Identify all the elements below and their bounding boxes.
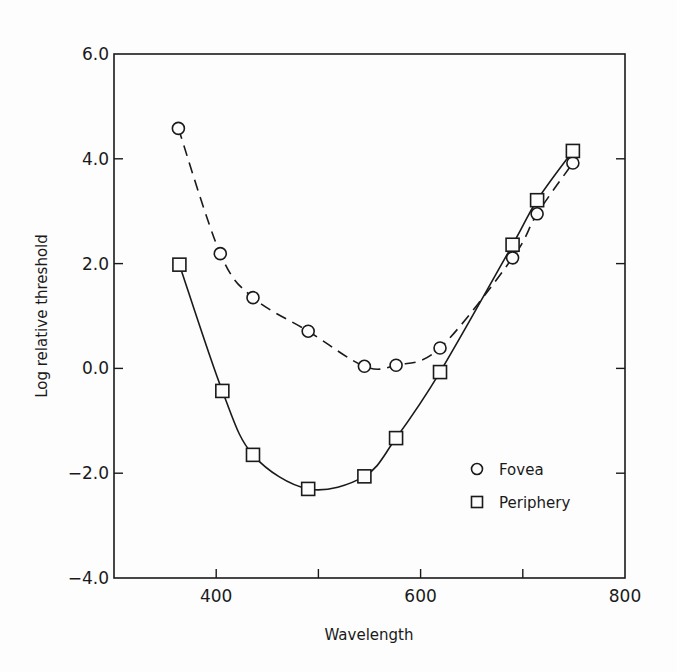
square-marker-icon (506, 238, 519, 251)
square-marker-icon (358, 470, 371, 483)
series-periphery (173, 144, 579, 495)
square-marker-icon (434, 366, 447, 379)
series (172, 122, 579, 495)
square-marker-icon (216, 384, 229, 397)
x-tick-label: 400 (200, 586, 232, 606)
y-tick-label: 6.0 (82, 44, 109, 64)
ticks: −4.0−2.00.02.04.06.0400600800 (68, 44, 642, 606)
square-marker-icon (302, 482, 315, 495)
circle-marker-icon (567, 157, 579, 169)
y-tick-label: −2.0 (68, 463, 109, 483)
legend-label-fovea: Fovea (499, 461, 544, 479)
circle-marker-icon (172, 122, 184, 134)
y-tick-label: 0.0 (82, 358, 109, 378)
square-marker-icon (390, 432, 403, 445)
circle-marker-icon (434, 342, 446, 354)
y-tick-label: 4.0 (82, 149, 109, 169)
square-marker-icon (531, 194, 544, 207)
circle-marker-icon (358, 360, 370, 372)
square-marker-icon (566, 144, 579, 157)
y-axis-title: Log relative threshold (33, 234, 51, 398)
circle-marker-icon (531, 208, 543, 220)
x-tick-label: 600 (404, 586, 436, 606)
chart: −4.0−2.00.02.04.06.0400600800 Log relati… (0, 0, 677, 672)
y-tick-label: 2.0 (82, 254, 109, 274)
legend-square-icon (472, 497, 483, 508)
x-axis-title: Wavelength (325, 626, 414, 644)
legend: Fovea Periphery (472, 461, 571, 512)
periphery-line (179, 151, 572, 490)
circle-marker-icon (390, 359, 402, 371)
circle-marker-icon (214, 248, 226, 260)
square-marker-icon (173, 258, 186, 271)
circle-marker-icon (302, 325, 314, 337)
x-tick-label: 800 (609, 586, 641, 606)
legend-label-periphery: Periphery (499, 494, 570, 512)
circle-marker-icon (247, 292, 259, 304)
y-tick-label: −4.0 (68, 568, 109, 588)
legend-circle-icon (472, 464, 483, 475)
square-marker-icon (246, 448, 259, 461)
